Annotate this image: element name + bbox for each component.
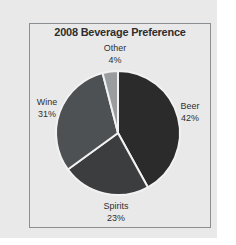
pie-label-wine-percent: 31% xyxy=(22,108,73,120)
pie-label-beer: Beer 42% xyxy=(169,100,210,123)
pie-label-beer-percent: 42% xyxy=(169,112,210,124)
pie-label-spirits-percent: 23% xyxy=(85,212,147,224)
pie-label-beer-name: Beer xyxy=(169,100,210,112)
pie-label-other: Other 4% xyxy=(85,42,145,65)
pie-label-other-percent: 4% xyxy=(85,54,145,66)
pie-label-spirits: Spirits 23% xyxy=(85,200,147,223)
pie-label-other-name: Other xyxy=(85,42,145,54)
pie-label-wine: Wine 31% xyxy=(22,96,73,119)
pie-label-spirits-name: Spirits xyxy=(85,200,147,212)
pie-label-wine-name: Wine xyxy=(22,96,73,108)
pie-chart-figure: 2008 Beverage Preference Other 4% Beer 4… xyxy=(0,0,236,245)
